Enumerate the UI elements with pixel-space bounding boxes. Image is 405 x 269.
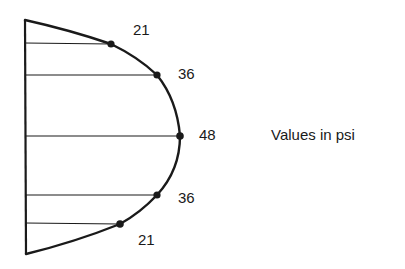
data-point-3	[176, 132, 184, 140]
baseline	[25, 20, 26, 254]
pressure-line-5	[25, 223, 120, 224]
value-label-1: 21	[133, 22, 150, 37]
units-note: Values in psi	[271, 127, 355, 142]
value-label-3: 48	[199, 127, 216, 142]
data-point-2	[153, 71, 160, 78]
data-point-4	[153, 191, 160, 198]
value-label-5: 21	[138, 232, 155, 247]
pressure-line-1	[25, 43, 111, 44]
data-point-5	[116, 220, 124, 228]
value-label-2: 36	[178, 66, 195, 81]
pressure-curve	[25, 20, 180, 254]
data-point-1	[107, 40, 114, 47]
value-label-4: 36	[178, 190, 195, 205]
